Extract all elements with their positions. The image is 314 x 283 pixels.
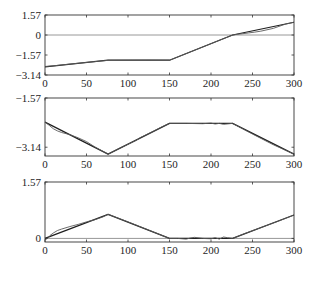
y-tick-label: −1.57 xyxy=(16,92,41,104)
x-tick-label: 250 xyxy=(244,158,261,170)
x-tick-label: 50 xyxy=(81,158,92,170)
x-tick-label: 100 xyxy=(120,158,137,170)
plot-area xyxy=(45,98,294,156)
x-tick-label: 150 xyxy=(161,158,178,170)
reference-line xyxy=(45,214,294,238)
x-tick-label: 0 xyxy=(42,158,48,170)
y-tick-label: 0 xyxy=(36,29,42,41)
x-tick-label: 200 xyxy=(203,244,220,256)
estimate-line xyxy=(45,22,294,66)
x-tick-label: 300 xyxy=(286,158,303,170)
x-tick-label: 250 xyxy=(244,244,261,256)
axes-frame xyxy=(45,15,294,75)
x-tick-label: 300 xyxy=(286,77,303,89)
axes-frame xyxy=(45,182,294,242)
y-tick-label: 1.57 xyxy=(22,9,41,21)
plot-area xyxy=(45,15,294,75)
x-tick-label: 150 xyxy=(161,244,178,256)
subplot-middle: −1.57−3.14050100150200250300 xyxy=(45,98,294,156)
x-tick-label: 250 xyxy=(244,77,261,89)
x-tick-label: 0 xyxy=(42,244,48,256)
x-tick-label: 100 xyxy=(120,244,137,256)
estimate-line xyxy=(45,122,294,154)
subplot-top: 1.570−1.57−3.14050100150200250300 xyxy=(45,15,294,75)
plot-area xyxy=(45,182,294,242)
y-tick-label: 1.57 xyxy=(22,176,41,188)
estimate-line xyxy=(45,214,294,240)
reference-line xyxy=(45,122,294,154)
y-tick-label: −3.14 xyxy=(16,69,41,81)
axes-frame xyxy=(45,98,294,156)
y-tick-label: 0 xyxy=(36,232,42,244)
x-tick-label: 200 xyxy=(203,77,220,89)
y-tick-label: −1.57 xyxy=(16,49,41,61)
x-tick-label: 100 xyxy=(120,77,137,89)
x-tick-label: 0 xyxy=(42,77,48,89)
x-tick-label: 50 xyxy=(81,77,92,89)
x-tick-label: 300 xyxy=(286,244,303,256)
y-tick-label: −3.14 xyxy=(16,141,41,153)
x-tick-label: 50 xyxy=(81,244,92,256)
subplot-bottom: 1.570050100150200250300 xyxy=(45,182,294,242)
x-tick-label: 200 xyxy=(203,158,220,170)
x-tick-label: 150 xyxy=(161,77,178,89)
